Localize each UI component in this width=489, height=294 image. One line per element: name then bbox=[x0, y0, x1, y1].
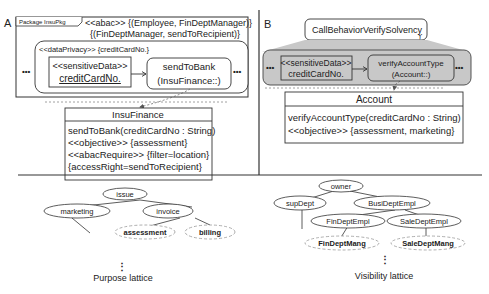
sensitive-name: creditCardNo. bbox=[59, 73, 121, 84]
rake-icon: ⲩ bbox=[418, 31, 422, 40]
node-fin-label: FinDeptEmpl bbox=[326, 217, 370, 226]
ellipsis-right: ••• bbox=[233, 67, 242, 76]
package-tag: Package InsuPkg bbox=[19, 19, 66, 25]
node-supdept-label: supDept bbox=[286, 199, 315, 208]
class-line-a-3: {accessRight=sendToRecipient} bbox=[68, 161, 202, 172]
node-sale-label: SaleDeptEmpl bbox=[400, 217, 448, 226]
edge-marketing-down bbox=[72, 218, 90, 233]
panel-b-label: B bbox=[264, 18, 271, 30]
class-line-b-1: <<objective>> {assessment, marketing} bbox=[288, 125, 454, 136]
node-billing-label: billing bbox=[199, 228, 221, 237]
edge-invoice-assessment bbox=[150, 218, 180, 226]
visibility-caption: Visibility lattice bbox=[355, 271, 413, 281]
node-salemang-label: SaleDeptMang bbox=[402, 239, 454, 248]
action-owner: (InsuFinance::) bbox=[157, 75, 220, 86]
node-finmang-label: FinDeptMang bbox=[318, 239, 366, 248]
panel-a-label: A bbox=[4, 17, 12, 29]
purpose-lattice: issue marketing invoice assessment billi… bbox=[44, 188, 235, 283]
purpose-caption: Purpose lattice bbox=[93, 273, 153, 283]
visibility-more-icon: ⋮ bbox=[380, 254, 390, 265]
class-name-a: InsuFinance bbox=[112, 109, 164, 120]
ellipsis-left: ••• bbox=[22, 67, 31, 76]
node-busi-label: BusiDeptEmpl bbox=[368, 199, 416, 208]
panel-b: B CallBehaviorVerifySolvency ⲩ ••• <<sen… bbox=[262, 18, 471, 143]
class-line-a-0: sendToBank(creditCardNo : String) bbox=[68, 125, 215, 136]
class-line-a-2: <<abacRequire>> {filter=location} bbox=[68, 149, 209, 160]
sensitive-stereotype: <<sensitiveData>> bbox=[52, 61, 127, 71]
action-name-b: verifyAccountType bbox=[378, 59, 444, 68]
visibility-lattice: owner supDept BusiDeptEmpl FinDeptEmpl S… bbox=[274, 180, 465, 281]
edge-invoice-billing bbox=[195, 218, 210, 225]
purpose-more-icon: ⋮ bbox=[117, 261, 127, 272]
abac-line-2: {(FinDeptManager, sendToRecipient)} bbox=[90, 29, 240, 39]
class-line-b-0: verifyAccountType(creditCardNo : String) bbox=[288, 112, 461, 123]
node-invoice-label: invoice bbox=[156, 207, 179, 216]
diagram-canvas: A Package InsuPkg <<abac>> {(Employee, F… bbox=[0, 0, 489, 294]
node-marketing-label: marketing bbox=[61, 207, 94, 216]
panel-a: A Package InsuPkg <<abac>> {(Employee, F… bbox=[4, 17, 252, 180]
sensitive-stereotype-b: <<sensitiveData>> bbox=[281, 58, 352, 68]
node-issue-label: issue bbox=[116, 190, 134, 199]
abac-line-1: <<abac>> {(Employee, FinDeptManager)} bbox=[85, 18, 252, 28]
class-line-a-1: <<objective>> {assessment} bbox=[68, 137, 187, 148]
node-assessment-label: assessment bbox=[124, 228, 167, 237]
data-privacy-label: <<dataPrivacy>> {creditCardNo.} bbox=[39, 45, 150, 54]
call-behavior-label: CallBehaviorVerifySolvency bbox=[312, 25, 423, 35]
sensitive-name-b: creditCardNo. bbox=[288, 69, 344, 79]
ellipsis-right-b: ••• bbox=[455, 63, 464, 72]
action-owner-b: (Account::) bbox=[392, 70, 431, 79]
action-name: sendToBank bbox=[163, 61, 216, 72]
class-name-b: Account bbox=[356, 94, 392, 105]
ellipsis-left-b: ••• bbox=[266, 63, 275, 72]
node-owner-label: owner bbox=[331, 182, 352, 191]
